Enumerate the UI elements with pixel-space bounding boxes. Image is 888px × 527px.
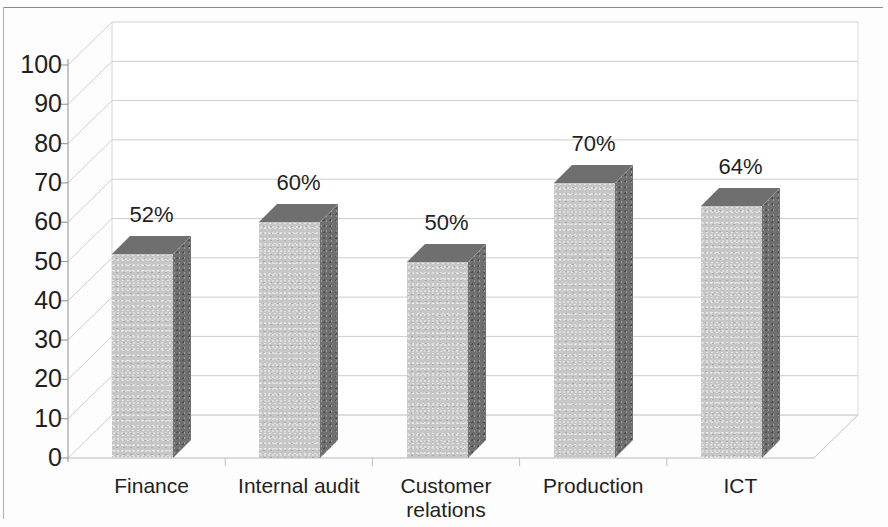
bar-front-face[interactable] — [112, 254, 173, 458]
y-axis-tick-label: 20 — [6, 366, 62, 391]
category-label: Customerrelations — [364, 474, 527, 521]
category-label-line: Finance — [70, 474, 233, 498]
y-axis-tick-label: 60 — [6, 209, 62, 234]
category-label-line: relations — [364, 498, 527, 522]
category-label: Finance — [70, 474, 233, 498]
bar-side-face[interactable] — [468, 244, 486, 458]
bar-value-label: 50% — [397, 212, 496, 234]
y-axis-tick-label: 70 — [6, 170, 62, 195]
y-axis-tick-labels: 0102030405060708090100 — [0, 0, 62, 527]
y-axis-tick-label: 30 — [6, 327, 62, 352]
bar-front-face[interactable] — [554, 183, 615, 458]
category-label: Production — [512, 474, 675, 498]
bar-side-face[interactable] — [615, 165, 633, 458]
y-axis-tick-label: 40 — [6, 288, 62, 313]
bar-value-label: 52% — [102, 204, 201, 226]
bar-value-label: 70% — [544, 133, 643, 155]
y-axis-tick-label: 100 — [6, 52, 62, 77]
category-label-line: Internal audit — [217, 474, 380, 498]
bar-value-label: 64% — [691, 156, 790, 178]
bar-side-face[interactable] — [762, 188, 780, 458]
bar-value-label: 60% — [249, 172, 348, 194]
bar-front-face[interactable] — [259, 222, 320, 458]
category-label-line: Customer — [364, 474, 527, 498]
bar-chart-plot-area: 0102030405060708090100 52%60%50%70%64% F… — [0, 0, 888, 527]
y-axis-tick-label: 50 — [6, 249, 62, 274]
y-axis-tick-label: 10 — [6, 406, 62, 431]
y-axis-tick-label: 0 — [6, 445, 62, 470]
y-axis-tick-label: 90 — [6, 91, 62, 116]
bar-front-face[interactable] — [407, 262, 468, 458]
y-axis-tick-label: 80 — [6, 131, 62, 156]
category-label: ICT — [659, 474, 822, 498]
bar-front-face[interactable] — [701, 206, 762, 458]
chart-screenshot: 0102030405060708090100 52%60%50%70%64% F… — [0, 0, 888, 527]
category-label-line: ICT — [659, 474, 822, 498]
category-label-line: Production — [512, 474, 675, 498]
bar-side-face[interactable] — [173, 236, 191, 458]
bar-side-face[interactable] — [320, 204, 338, 458]
category-label: Internal audit — [217, 474, 380, 498]
